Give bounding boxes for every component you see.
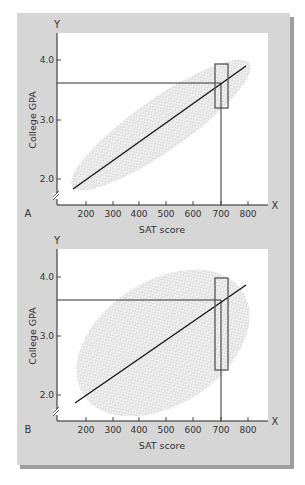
- y-axis-letter-b: Y: [53, 235, 61, 246]
- panel-b: 4.0 3.0 2.0 200 300 400 500 600 700 800 …: [25, 235, 279, 451]
- y-tick-label-b: 4.0: [40, 272, 55, 282]
- x-tick-label-a: 800: [239, 209, 256, 219]
- y-tick-label-a: 3.0: [40, 115, 55, 125]
- x-axis-title-b: SAT score: [139, 440, 185, 451]
- figure: 4.0 3.0 2.0 200 300 400 500 600 700 800 …: [0, 0, 305, 485]
- x-tick-label-a: 300: [104, 209, 121, 219]
- x-axis-letter-a: X: [272, 200, 279, 211]
- x-tick-label-b: 500: [157, 425, 174, 435]
- panel-label-a: A: [25, 208, 32, 219]
- y-tick-label-a: 4.0: [40, 55, 55, 65]
- x-tick-label-a: 600: [184, 209, 201, 219]
- y-tick-label-b: 2.0: [40, 390, 55, 400]
- y-tick-label-a: 2.0: [40, 174, 55, 184]
- panel-label-b: B: [25, 424, 32, 435]
- x-tick-label-a: 700: [212, 209, 229, 219]
- x-tick-label-a: 500: [157, 209, 174, 219]
- x-tick-label-a: 200: [77, 209, 94, 219]
- y-axis-title-b: College GPA: [27, 307, 38, 365]
- x-axis-letter-b: X: [272, 416, 279, 427]
- x-tick-label-a: 400: [130, 209, 147, 219]
- x-tick-label-b: 400: [130, 425, 147, 435]
- x-tick-label-b: 200: [77, 425, 94, 435]
- x-tick-label-b: 700: [212, 425, 229, 435]
- x-axis-title-a: SAT score: [139, 224, 185, 235]
- y-axis-title-a: College GPA: [27, 91, 38, 149]
- y-axis-letter-a: Y: [53, 19, 61, 30]
- x-tick-label-b: 600: [184, 425, 201, 435]
- y-tick-label-b: 3.0: [40, 331, 55, 341]
- panel-a: 4.0 3.0 2.0 200 300 400 500 600 700 800 …: [25, 19, 279, 235]
- x-tick-label-b: 300: [104, 425, 121, 435]
- x-tick-label-b: 800: [239, 425, 256, 435]
